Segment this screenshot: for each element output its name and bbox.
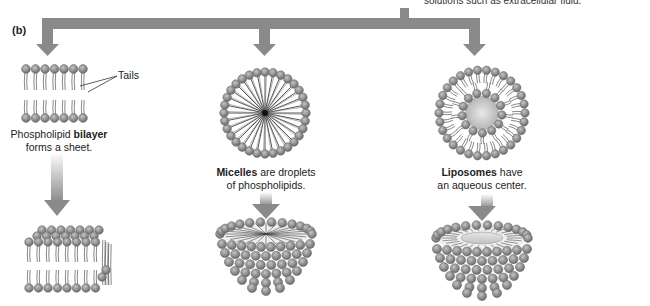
tails-callout-lines — [80, 76, 117, 92]
bilayer-down-arrow — [44, 152, 70, 216]
liposome-3d-diagram — [432, 221, 533, 301]
micelle-caption-line2: of phospholipids. — [227, 179, 306, 191]
bilayer-caption-line2: forms a sheet. — [26, 141, 93, 153]
liposome-down-arrow — [468, 194, 496, 221]
micelle-down-arrow — [252, 192, 280, 219]
micelle-diagram — [220, 68, 311, 159]
micelle-caption: Micelles are droplets of phospholipids. — [206, 166, 326, 191]
bilayer-caption: Phospholipid bilayer forms a sheet. — [0, 128, 118, 153]
liposome-caption-bold: Liposomes — [441, 166, 496, 178]
bilayer-sheet-diagram — [22, 65, 88, 123]
tails-label: Tails — [118, 69, 139, 82]
bilayer-caption-pre: Phospholipid — [11, 128, 74, 140]
bilayer-3d-diagram — [25, 226, 112, 293]
liposome-caption-line2: an aqueous center. — [437, 179, 526, 191]
micelle-3d-diagram — [216, 218, 317, 296]
distributor-arrow — [36, 8, 486, 56]
micelle-caption-post: are droplets — [257, 166, 315, 178]
diagram-canvas — [0, 0, 650, 306]
micelle-caption-bold: Micelles — [216, 166, 257, 178]
liposome-caption: Liposomes have an aqueous center. — [422, 166, 542, 191]
liposome-diagram — [435, 66, 529, 160]
bilayer-caption-bold: bilayer — [74, 128, 108, 140]
liposome-caption-post: have — [497, 166, 523, 178]
